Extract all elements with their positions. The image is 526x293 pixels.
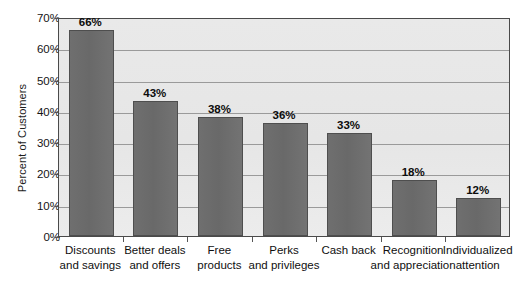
- plot-area: [58, 18, 510, 237]
- category-label-line-2: attention: [443, 258, 513, 273]
- x-axis-tick-mark: [187, 237, 188, 242]
- category-label-line-1: Better deals: [124, 244, 185, 256]
- y-axis-tick-group: 0%10%20%30%40%50%60%70%: [16, 0, 60, 293]
- y-axis-tick-label: 30%: [16, 137, 60, 149]
- x-axis-tick-mark: [445, 237, 446, 242]
- y-axis-tick-label: 20%: [16, 168, 60, 180]
- bar: [133, 101, 178, 236]
- category-label-line-1: Recognition: [383, 244, 444, 256]
- x-axis-category-label: Perksand privileges: [249, 243, 320, 273]
- y-axis-tick-label: 60%: [16, 43, 60, 55]
- bar: [263, 123, 308, 236]
- y-axis-tick-label: 70%: [16, 12, 60, 24]
- bars-layer: [59, 19, 509, 236]
- y-axis-tick-label: 50%: [16, 75, 60, 87]
- category-label-line-1: Perks: [269, 244, 298, 256]
- x-axis-category-label: Freeproducts: [197, 243, 241, 273]
- category-label-line-1: Free: [208, 244, 232, 256]
- category-label-line-2: products: [197, 258, 241, 273]
- category-label-line-2: and offers: [124, 258, 185, 273]
- bar: [327, 133, 372, 236]
- y-axis-tick-label: 0%: [16, 231, 60, 243]
- x-axis-category-label: Cash back: [321, 243, 375, 258]
- category-label-line-1: Individualized: [443, 244, 513, 256]
- x-axis-tick-mark: [252, 237, 253, 242]
- x-axis-category-label: Individualizedattention: [443, 243, 513, 273]
- category-label-line-1: Cash back: [321, 244, 375, 256]
- bar: [198, 117, 243, 236]
- category-label-line-2: and privileges: [249, 258, 320, 273]
- x-axis-category-group: Discountsand savingsBetter dealsand offe…: [58, 243, 510, 289]
- bar: [456, 198, 501, 236]
- category-label-line-1: Discounts: [65, 244, 116, 256]
- y-axis-tick-label: 10%: [16, 200, 60, 212]
- x-axis-category-label: Better dealsand offers: [124, 243, 185, 273]
- bar: [69, 30, 114, 236]
- y-axis-tick-label: 40%: [16, 106, 60, 118]
- category-label-line-2: and savings: [60, 258, 121, 273]
- bar-chart-figure: Percent of Customers 0%10%20%30%40%50%60…: [0, 0, 526, 293]
- x-axis-category-label: Discountsand savings: [60, 243, 121, 273]
- x-axis-tick-mark: [123, 237, 124, 242]
- x-axis-tick-mark: [381, 237, 382, 242]
- x-axis-tick-mark: [316, 237, 317, 242]
- bar: [392, 180, 437, 236]
